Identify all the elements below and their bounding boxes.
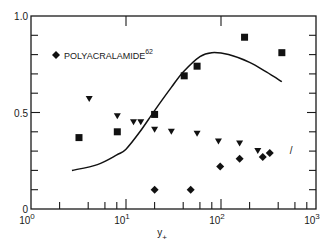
triangle-marker	[215, 138, 222, 144]
diamond-marker	[266, 149, 274, 157]
square-marker	[278, 49, 285, 56]
x-axis-label-sub: +	[162, 233, 167, 242]
axes	[31, 16, 316, 209]
chart: 10010110210300.51.0 POLYACRALAMIDE62 y+ …	[0, 0, 333, 252]
model-curve	[72, 53, 282, 171]
ticks	[31, 16, 316, 209]
x-tick-label: 101	[114, 212, 130, 226]
triangle-marker	[254, 148, 261, 154]
x-axis-label: y+	[157, 227, 167, 242]
y-tick-label: 1.0	[14, 11, 28, 22]
diamond-marker	[187, 186, 195, 194]
legend-label-text: POLYACRALAMIDE	[64, 51, 145, 61]
diamond-marker	[216, 163, 224, 171]
legend-label: POLYACRALAMIDE62	[64, 48, 153, 61]
triangle-marker	[130, 119, 137, 125]
triangle-marker	[194, 131, 201, 137]
square-marker	[194, 63, 201, 70]
diamond-marker	[151, 186, 159, 194]
triangle-marker	[151, 127, 158, 133]
diamond-marker	[236, 155, 244, 163]
square-marker	[241, 34, 248, 41]
square-marker	[75, 134, 82, 141]
plot-frame	[31, 16, 316, 209]
triangle-marker	[168, 129, 175, 135]
square-marker	[181, 72, 188, 79]
triangle-marker	[236, 140, 243, 146]
annotations: /	[290, 145, 293, 156]
square-marker	[151, 111, 158, 118]
y-tick-label: 0	[22, 204, 28, 215]
x-tick-label: 103	[304, 212, 320, 226]
triangle-marker	[137, 119, 144, 125]
legend-superscript: 62	[145, 48, 153, 55]
tick-labels: 10010110210300.51.0	[14, 11, 320, 226]
diamond-marker	[259, 153, 267, 161]
legend-diamond-marker	[52, 51, 60, 59]
legend: POLYACRALAMIDE62	[52, 48, 153, 61]
annotation-mark: /	[290, 145, 293, 156]
triangle-marker	[114, 113, 121, 119]
x-tick-label: 102	[209, 212, 225, 226]
y-tick-label: 0.5	[14, 108, 28, 119]
triangle-marker	[86, 96, 93, 102]
square-marker	[114, 128, 121, 135]
